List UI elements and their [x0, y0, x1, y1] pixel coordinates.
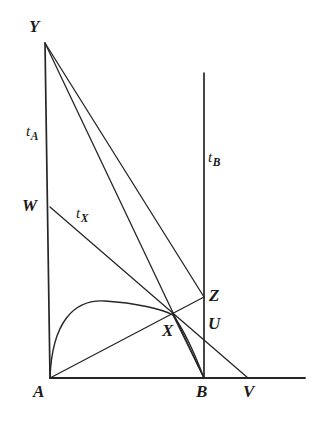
geometry-canvas [0, 0, 328, 430]
tangent-label-ta: tA [26, 124, 38, 139]
tangent-label-ta-base: t [26, 123, 30, 139]
point-label-b: B [196, 383, 207, 400]
geometry-figure: Y W X Z U A B V tA tB tX [0, 0, 328, 430]
tangent-label-tb: tB [208, 150, 220, 165]
tangent-label-tx-base: t [76, 205, 80, 221]
line-x-to-b [173, 315, 204, 378]
point-label-w: W [22, 197, 37, 214]
point-label-x: X [162, 322, 173, 339]
tangent-label-ta-sub: A [31, 130, 39, 142]
point-label-u: U [208, 315, 220, 332]
line-y-to-z [45, 43, 204, 297]
point-label-a: A [33, 383, 44, 400]
tangent-label-tx: tX [76, 206, 88, 221]
point-label-z: Z [209, 287, 219, 304]
arc-a-to-x [50, 301, 173, 378]
line-y-to-b [45, 43, 204, 378]
tangent-label-tb-sub: B [213, 156, 221, 168]
point-label-y: Y [29, 18, 39, 35]
point-label-v: V [243, 383, 254, 400]
line-a-to-z [50, 297, 204, 378]
tangent-line-ta [45, 43, 50, 378]
tangent-label-tb-base: t [208, 149, 212, 165]
tangent-label-tx-sub: X [81, 212, 89, 224]
